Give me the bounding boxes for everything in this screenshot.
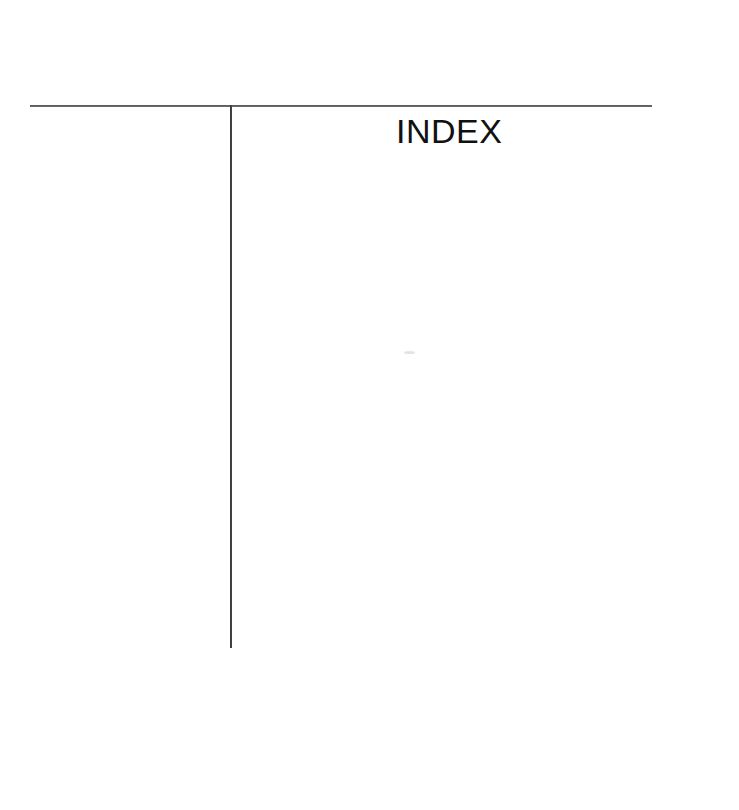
horizontal-rule [30,105,652,107]
scanned-page: INDEX [0,0,739,810]
index-content-area [233,110,653,646]
scan-artifact-speck [404,351,415,354]
left-margin-column [30,110,228,646]
vertical-rule [230,105,232,648]
